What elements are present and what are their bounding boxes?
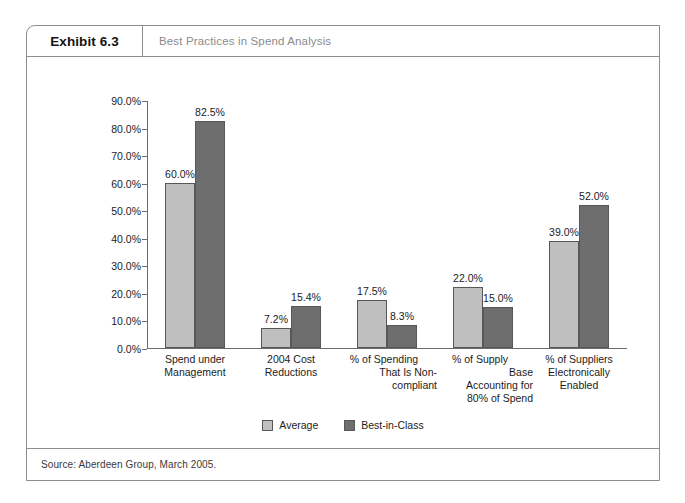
y-axis-tick-label: 10.0% <box>89 315 141 327</box>
x-axis-category-labels: Spend underManagement2004 CostReductions… <box>147 353 627 415</box>
x-axis-line <box>147 348 627 349</box>
y-axis-tick-mark <box>142 349 147 350</box>
legend-item-best-in-class: Best-in-Class <box>344 419 423 431</box>
bar-group: 39.0%52.0% <box>549 100 609 348</box>
chart-area: 0.0%10.0%20.0%30.0%40.0%50.0%60.0%70.0%8… <box>27 57 659 448</box>
y-axis-tick-label: 90.0% <box>89 95 141 107</box>
bar-group: 17.5%8.3% <box>357 100 417 348</box>
y-axis-tick-mark <box>142 129 147 130</box>
bar-group: 7.2%15.4% <box>261 100 321 348</box>
y-axis-tick-mark <box>142 266 147 267</box>
y-axis-tick-label: 20.0% <box>89 288 141 300</box>
category-label-line: Base <box>427 366 533 379</box>
bar-best-in-class <box>291 306 321 348</box>
y-axis-tick-label: 70.0% <box>89 150 141 162</box>
bar-average <box>357 300 387 348</box>
y-axis-tick-labels: 0.0%10.0%20.0%30.0%40.0%50.0%60.0%70.0%8… <box>89 57 141 448</box>
category-label-line: Electronically <box>523 366 635 379</box>
bar-value-label: 52.0% <box>569 190 619 202</box>
category-label-line: compliant <box>331 379 437 392</box>
bar-value-label: 8.3% <box>377 310 427 322</box>
bar-best-in-class <box>387 325 417 348</box>
y-axis-tick-mark <box>142 239 147 240</box>
chart-legend: AverageBest-in-Class <box>27 419 659 431</box>
y-axis-tick-label: 30.0% <box>89 260 141 272</box>
source-text: Source: Aberdeen Group, March 2005. <box>41 459 216 470</box>
source-bar: Source: Aberdeen Group, March 2005. <box>27 448 659 480</box>
bar-best-in-class <box>195 121 225 348</box>
bar-value-label: 15.0% <box>473 292 523 304</box>
y-axis-tick-label: 40.0% <box>89 233 141 245</box>
y-axis-tick-mark <box>142 101 147 102</box>
bar-average <box>165 183 195 348</box>
y-axis-tick-mark <box>142 156 147 157</box>
exhibit-title-cell: Best Practices in Spend Analysis <box>143 26 659 56</box>
bar-best-in-class <box>579 205 609 348</box>
y-axis-tick-mark <box>142 321 147 322</box>
bar-group: 22.0%15.0% <box>453 100 513 348</box>
category-label-line: % of Spending <box>331 353 437 366</box>
y-axis-tick-label: 50.0% <box>89 205 141 217</box>
category-label-line: % of Supply <box>427 353 533 366</box>
exhibit-frame: Exhibit 6.3 Best Practices in Spend Anal… <box>26 25 660 481</box>
bar-value-label: 15.4% <box>281 291 331 303</box>
legend-swatch-icon <box>344 420 355 431</box>
y-axis-tick-label: 80.0% <box>89 123 141 135</box>
y-axis-line <box>147 101 148 349</box>
category-label-line: % of Suppliers <box>523 353 635 366</box>
bar-average <box>261 328 291 348</box>
exhibit-number-label: Exhibit 6.3 <box>50 34 119 49</box>
y-axis-tick-mark <box>142 211 147 212</box>
category-label-line: Enabled <box>523 379 635 392</box>
bar-best-in-class <box>483 307 513 348</box>
bar-group: 60.0%82.5% <box>165 100 225 348</box>
legend-swatch-icon <box>262 420 273 431</box>
category-label-line: Accounting for <box>427 379 533 392</box>
exhibit-number-cell: Exhibit 6.3 <box>27 26 143 56</box>
exhibit-title-text: Best Practices in Spend Analysis <box>159 35 331 47</box>
x-axis-category-label: % of SuppliersElectronicallyEnabled <box>523 353 635 392</box>
bar-average <box>549 241 579 348</box>
legend-label: Average <box>279 419 318 431</box>
y-axis-tick-label: 60.0% <box>89 178 141 190</box>
bar-value-label: 17.5% <box>347 285 397 297</box>
exhibit-header: Exhibit 6.3 Best Practices in Spend Anal… <box>27 26 659 57</box>
legend-label: Best-in-Class <box>361 419 423 431</box>
y-axis-tick-label: 0.0% <box>89 343 141 355</box>
legend-item-average: Average <box>262 419 318 431</box>
category-label-line: That Is Non- <box>331 366 437 379</box>
plot-region: 60.0%82.5%7.2%15.4%17.5%8.3%22.0%15.0%39… <box>147 101 627 349</box>
bar-value-label: 82.5% <box>185 106 235 118</box>
y-axis-tick-mark <box>142 294 147 295</box>
category-label-line: 80% of Spend <box>427 392 533 405</box>
y-axis-tick-mark <box>142 184 147 185</box>
bar-value-label: 22.0% <box>443 272 493 284</box>
